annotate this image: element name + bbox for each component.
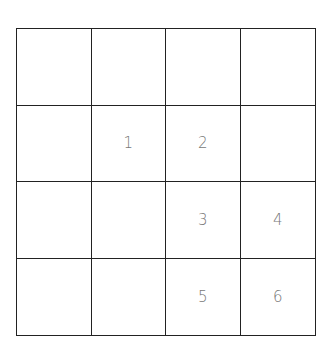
- grid-diagram: 1 2 3 4 5 6: [16, 28, 316, 336]
- grid-cell-r1-c1: [17, 29, 92, 106]
- grid-cell-r3-c3: 3: [166, 182, 241, 259]
- grid-cell-r2-c2: 1: [92, 106, 167, 183]
- grid-cell-r4-c2: [92, 259, 167, 336]
- grid-cell-r4-c4: 6: [241, 259, 316, 336]
- grid-cell-r2-c1: [17, 106, 92, 183]
- grid-cell-r3-c4: 4: [241, 182, 316, 259]
- grid-cell-r3-c2: [92, 182, 167, 259]
- grid-cell-r1-c2: [92, 29, 167, 106]
- grid-cell-r1-c3: [166, 29, 241, 106]
- grid-cell-r4-c1: [17, 259, 92, 336]
- grid-cell-r2-c3: 2: [166, 106, 241, 183]
- grid-cell-r3-c1: [17, 182, 92, 259]
- grid-cell-r2-c4: [241, 106, 316, 183]
- grid-cell-r1-c4: [241, 29, 316, 106]
- grid-cell-r4-c3: 5: [166, 259, 241, 336]
